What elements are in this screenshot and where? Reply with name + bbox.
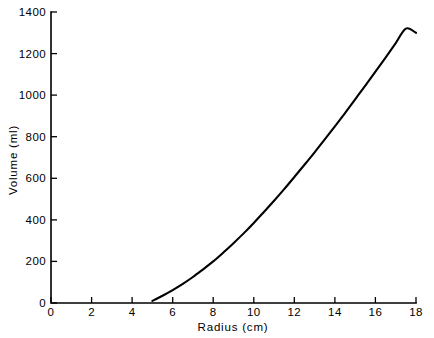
volume-vs-radius-chart: 0 200 400 600 800 1000 1200 1400 0 2 4 6… bbox=[0, 0, 434, 338]
y-axis-title: Volume (ml) bbox=[7, 125, 19, 195]
x-tick-label: 2 bbox=[88, 306, 95, 318]
y-tick-label: 0 bbox=[39, 297, 46, 309]
y-tick-label: 600 bbox=[26, 172, 46, 184]
x-tick-label: 12 bbox=[288, 306, 302, 318]
y-tick-label: 1400 bbox=[19, 6, 46, 18]
x-tick-label: 6 bbox=[169, 306, 176, 318]
y-tick-label: 200 bbox=[26, 255, 46, 267]
x-axis-title: Radius (cm) bbox=[198, 321, 269, 333]
y-tick-label: 1200 bbox=[19, 48, 46, 60]
axis-lines bbox=[51, 12, 416, 303]
x-tick-label: 0 bbox=[48, 306, 55, 318]
x-axis-ticks bbox=[51, 297, 416, 303]
x-tick-label: 4 bbox=[129, 306, 136, 318]
y-tick-label: 400 bbox=[26, 214, 46, 226]
x-tick-label: 10 bbox=[247, 306, 261, 318]
x-tick-label: 8 bbox=[210, 306, 217, 318]
y-axis-tick-labels: 0 200 400 600 800 1000 1200 1400 bbox=[19, 6, 46, 309]
chart-canvas: 0 200 400 600 800 1000 1200 1400 0 2 4 6… bbox=[0, 0, 434, 338]
x-tick-label: 16 bbox=[369, 306, 383, 318]
x-tick-label: 18 bbox=[409, 306, 423, 318]
x-axis-tick-labels: 0 2 4 6 8 10 12 14 16 18 bbox=[48, 306, 423, 318]
x-tick-label: 14 bbox=[328, 306, 342, 318]
data-curve bbox=[152, 28, 416, 301]
y-axis-ticks bbox=[51, 12, 57, 303]
y-tick-label: 1000 bbox=[19, 89, 46, 101]
y-tick-label: 800 bbox=[26, 131, 46, 143]
